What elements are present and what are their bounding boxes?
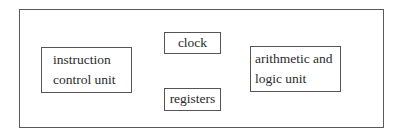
registers-box: registers <box>164 88 221 111</box>
clock-box: clock <box>164 32 221 54</box>
instruction-control-unit-label-line-2: control unit <box>53 70 131 90</box>
arithmetic-logic-unit-box: arithmetic and logic unit <box>250 46 341 92</box>
arithmetic-logic-unit-label-line-1: arithmetic and <box>255 49 340 69</box>
instruction-control-unit-label-line-1: instruction <box>53 50 131 70</box>
clock-label: clock <box>165 33 220 52</box>
arithmetic-logic-unit-label-line-2: logic unit <box>255 69 340 89</box>
instruction-control-unit-box: instruction control unit <box>41 47 132 93</box>
registers-label: registers <box>165 89 220 109</box>
